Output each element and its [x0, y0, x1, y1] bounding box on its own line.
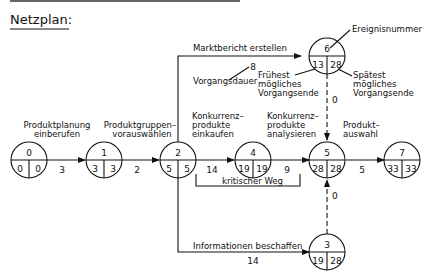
node-0: 0 0 0	[11, 142, 47, 178]
activity-2-6-label: Marktbericht erstellen	[193, 43, 287, 53]
top-edge-decoration	[10, 0, 240, 2]
node-7: 7 33 33	[384, 142, 420, 178]
svg-text:4: 4	[250, 148, 256, 158]
activity-4-5-duration: 9	[284, 165, 290, 175]
svg-text:6: 6	[324, 44, 330, 54]
svg-text:13: 13	[312, 60, 323, 70]
svg-text:0: 0	[26, 148, 32, 158]
activity-2-3-duration: 14	[247, 256, 259, 266]
activity-2-6-duration: 8	[250, 62, 256, 72]
svg-text:33: 33	[387, 164, 398, 174]
activity-1-2-label-line2: vorauswählen	[112, 129, 171, 139]
annotation-earliest-line3: Vorgangsende	[258, 88, 319, 98]
svg-text:28: 28	[330, 164, 342, 174]
svg-text:19: 19	[312, 256, 324, 266]
activity-2-4-duration: 14	[206, 165, 218, 175]
activity-0-1-label-line2: einberufen	[34, 129, 80, 139]
annotation-event-number: Ereignisnummer	[352, 24, 422, 34]
svg-text:3: 3	[110, 164, 116, 174]
svg-text:0: 0	[17, 164, 23, 174]
svg-text:2: 2	[175, 148, 181, 158]
activity-5-7-duration: 5	[359, 165, 365, 175]
dummy-6-5-duration: 0	[332, 95, 338, 105]
activity-2-3-label: Informationen beschaffen	[193, 241, 302, 251]
node-3: 3 19 28	[309, 234, 345, 270]
svg-text:28: 28	[330, 256, 342, 266]
node-2: 2 5 5	[160, 142, 196, 178]
svg-text:19: 19	[256, 164, 268, 174]
svg-text:28: 28	[312, 164, 324, 174]
node-1: 1 3 3	[86, 142, 122, 178]
activity-5-7-label-line2: auswahl	[343, 129, 378, 139]
pointer-earliest	[295, 69, 315, 75]
node-5: 5 28 28	[309, 142, 345, 178]
page-title: Netzplan:	[10, 12, 72, 27]
svg-text:5: 5	[166, 164, 172, 174]
pointer-latest	[338, 69, 352, 76]
svg-text:19: 19	[238, 164, 250, 174]
network-plan-diagram: Netzplan: kritischer Weg 0 0 0 1 3 3 2 5	[0, 0, 429, 280]
node-6: 6 13 28	[309, 38, 345, 74]
svg-text:7: 7	[399, 148, 405, 158]
activity-4-5-label-line3: analysieren	[267, 129, 316, 139]
activity-1-2-duration: 2	[134, 165, 140, 175]
annotation-duration: Vorgangsdauer	[193, 76, 258, 86]
activity-2-4-label-line3: einkaufen	[192, 129, 234, 139]
dummy-3-5-duration: 0	[332, 191, 338, 201]
annotation-latest-line3: Vorgangsende	[353, 88, 414, 98]
svg-text:3: 3	[324, 240, 330, 250]
svg-text:0: 0	[35, 164, 41, 174]
activity-0-1-duration: 3	[59, 165, 65, 175]
svg-text:1: 1	[101, 148, 107, 158]
node-4: 4 19 19	[235, 142, 271, 178]
svg-text:33: 33	[405, 164, 416, 174]
svg-text:28: 28	[330, 60, 342, 70]
svg-text:5: 5	[324, 148, 330, 158]
svg-text:3: 3	[92, 164, 98, 174]
svg-text:5: 5	[184, 164, 190, 174]
